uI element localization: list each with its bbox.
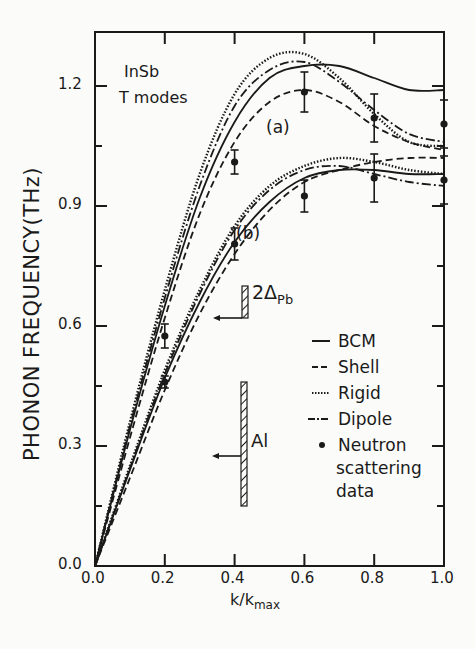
branch-b-label: (b): [236, 223, 260, 243]
neutron-point: [231, 150, 239, 174]
dashdot-line-icon: [306, 417, 332, 421]
pb-gap-label: 2ΔPb: [252, 281, 293, 307]
neutron-data-points: [161, 72, 448, 388]
filled-dot-icon: [316, 441, 332, 449]
x-tick-label: 0.4: [221, 569, 245, 587]
modes-label: T modes: [119, 88, 188, 107]
x-axis-label: k/kmax: [230, 590, 280, 612]
x-tick-label: 0.2: [151, 569, 175, 587]
branch-a-label: (a): [266, 117, 290, 137]
al-gap-marker: [212, 382, 247, 506]
x-tick-label: 1.0: [430, 569, 454, 587]
neutron-point: [300, 180, 308, 212]
y-tick-label: 0.9: [58, 195, 82, 213]
curve-shell-a: [95, 90, 444, 566]
curve-bcm-a: [95, 65, 444, 567]
dotted-line-icon: [310, 391, 332, 395]
al-gap-label: Al: [251, 430, 268, 451]
y-tick-label: 0.6: [58, 315, 82, 333]
legend-neutron-line3: data: [336, 481, 374, 501]
neutron-point: [440, 156, 448, 204]
y-tick-label: 0.0: [58, 555, 82, 573]
legend-item-neutron: Neutron: [316, 435, 406, 455]
curve-dipole-a: [95, 61, 444, 566]
y-axis-label: PHONON FREQUENCY(THz): [20, 164, 44, 464]
pb-gap-marker: [213, 286, 248, 321]
legend-item-bcm: BCM: [310, 331, 376, 351]
legend-neutron-line2: scattering: [336, 458, 422, 478]
material-label: InSb: [124, 62, 159, 81]
legend-item-shell: Shell: [310, 357, 379, 377]
x-tick-label: 0.0: [81, 569, 105, 587]
legend-item-dipole: Dipole: [306, 409, 392, 429]
x-tick-label: 0.6: [290, 569, 314, 587]
neutron-point: [440, 100, 448, 148]
legend-item-rigid: Rigid: [310, 383, 381, 403]
gap-markers: [212, 286, 248, 506]
y-tick-label: 0.3: [58, 435, 82, 453]
neutron-point: [370, 94, 378, 142]
x-tick-label: 0.8: [360, 569, 384, 587]
dashed-line-icon: [310, 365, 332, 369]
y-tick-label: 1.2: [58, 75, 82, 93]
neutron-point: [300, 72, 308, 112]
solid-line-icon: [310, 339, 332, 343]
